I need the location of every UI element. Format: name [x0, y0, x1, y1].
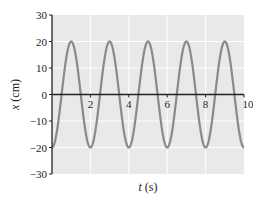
x-tick-label: 8 — [203, 98, 209, 110]
x-axis-label: t (s) — [138, 180, 157, 194]
x-tick-label: 6 — [164, 98, 170, 110]
y-axis-ticks: −30−20−100102030 — [30, 9, 52, 180]
y-tick-label: 10 — [36, 62, 48, 74]
y-tick-label: 0 — [42, 89, 48, 101]
y-axis-label: x (cm) — [8, 79, 22, 111]
x-tick-label: 10 — [243, 98, 254, 110]
y-tick-label: −10 — [30, 115, 48, 127]
x-tick-label: 4 — [126, 98, 132, 110]
x-tick-label: 2 — [88, 98, 94, 110]
displacement-time-chart: −30−20−100102030 246810 x (cm) t (s) — [0, 0, 253, 199]
y-tick-label: 20 — [36, 36, 48, 48]
y-tick-label: −30 — [30, 168, 48, 180]
y-tick-label: 30 — [36, 9, 48, 21]
y-tick-label: −20 — [30, 142, 48, 154]
